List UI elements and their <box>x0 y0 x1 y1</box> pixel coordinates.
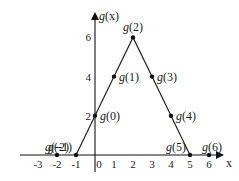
y-axis-label: g(x) <box>99 9 119 23</box>
data-point <box>112 74 116 78</box>
x-tick-label: 6 <box>206 158 212 170</box>
point-label: g(0) <box>100 109 120 123</box>
plot-line <box>76 37 190 155</box>
point-label: g(6) <box>202 140 222 154</box>
data-point <box>93 114 97 118</box>
point-label: g(3) <box>157 70 177 84</box>
x-tick-label: -3 <box>33 158 43 170</box>
y-tick-label: 2 <box>86 110 92 122</box>
x-axis-label: x <box>226 156 232 170</box>
point-label: g(4) <box>176 109 196 123</box>
data-point <box>169 114 173 118</box>
x-tick-label: -1 <box>71 158 80 170</box>
x-tick-label: 3 <box>149 158 155 170</box>
data-point <box>131 35 135 39</box>
y-tick-label: 6 <box>86 31 92 43</box>
data-point <box>150 74 154 78</box>
data-points <box>55 35 211 157</box>
function-graph: xg(x) -3-2-10123456246 g(-2)g(-1)g(0)g(1… <box>0 0 239 181</box>
x-tick-label: -2 <box>52 158 61 170</box>
data-point <box>74 153 78 157</box>
x-tick-label: 5 <box>187 158 193 170</box>
point-label: g(2) <box>123 20 143 34</box>
g-line <box>76 37 190 155</box>
x-tick-label: 0 <box>96 158 102 170</box>
point-label: g(1) <box>119 70 139 84</box>
x-tick-label: 4 <box>168 158 174 170</box>
y-tick-label: 4 <box>86 71 92 83</box>
data-point <box>188 153 192 157</box>
point-labels: g(-2)g(-1)g(0)g(1)g(2)g(3)g(4)g(5)g(6) <box>45 20 222 154</box>
x-tick-label: 1 <box>111 158 117 170</box>
point-label: g(5) <box>166 140 186 154</box>
point-label: g(-1) <box>48 140 72 154</box>
x-tick-label: 2 <box>130 158 136 170</box>
